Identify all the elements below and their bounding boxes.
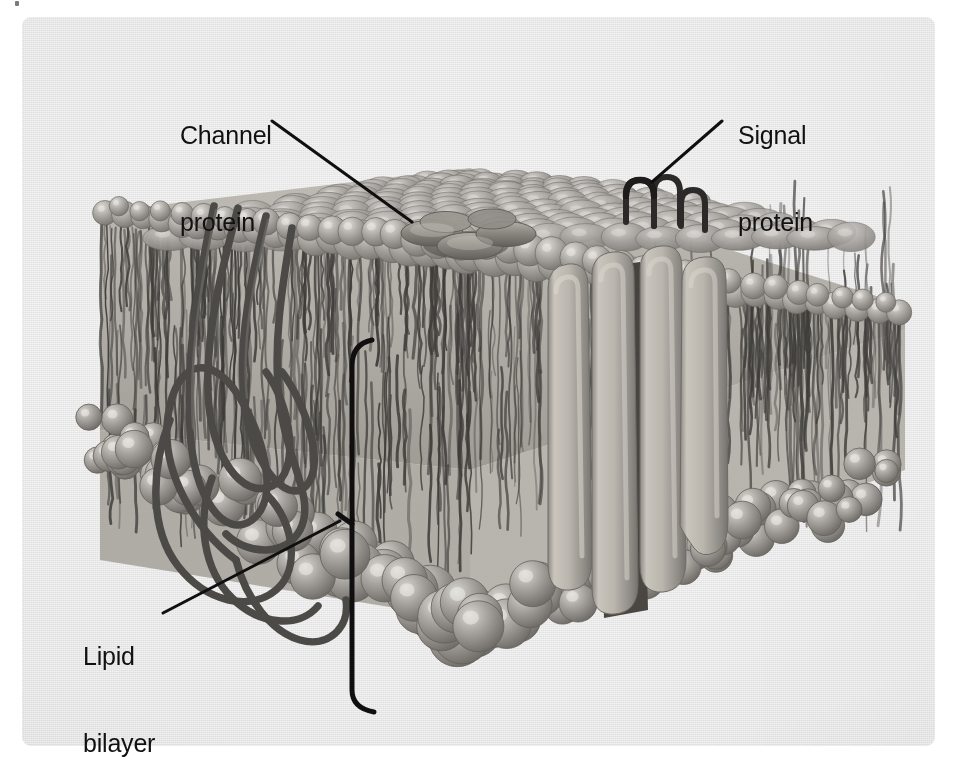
label-lipid-bilayer: Lipid bilayer [83,584,155,776]
label-lipid-bilayer-line1: Lipid [83,642,155,671]
label-channel-protein-line1: Channel [180,121,272,150]
label-channel-protein-line2: protein [180,208,272,237]
label-signal-protein-line1: Signal [738,121,813,150]
leader-signal-protein [652,121,722,182]
figure-root: Channel protein Signal protein Lipid bil… [0,0,953,776]
label-channel-protein: Channel protein [180,63,272,295]
label-lipid-bilayer-line2: bilayer [83,729,155,758]
label-signal-protein-line2: protein [738,208,813,237]
label-signal-protein: Signal protein [738,63,813,295]
